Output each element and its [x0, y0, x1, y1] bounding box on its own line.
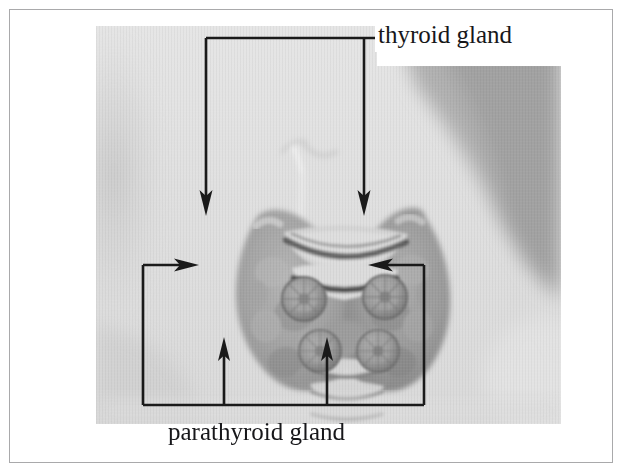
figure-border: [9, 9, 613, 463]
parathyroid-gland-label: parathyroid gland: [168, 419, 345, 444]
figure-root: thyroid gland parathyroid gland: [0, 0, 631, 474]
anatomy-photograph-svg: [96, 26, 561, 424]
anatomy-photograph: [96, 26, 561, 424]
thyroid-gland-label: thyroid gland: [375, 19, 518, 52]
